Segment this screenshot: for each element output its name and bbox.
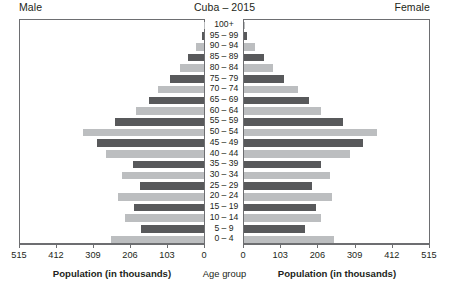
male-panel (19, 19, 205, 244)
age-group-label: 80 – 84 (205, 62, 243, 73)
female-axis-caption: Population (in thousands) (237, 268, 437, 279)
female-bar (244, 54, 264, 62)
age-group-label: 70 – 74 (205, 83, 243, 94)
male-bar (83, 129, 204, 137)
female-bar (244, 225, 305, 233)
male-bar (106, 150, 204, 158)
male-bar (188, 54, 204, 62)
x-axis-tick (19, 244, 20, 248)
x-axis-tick (317, 244, 318, 248)
age-group-label: 0 – 4 (205, 233, 243, 244)
female-bar (244, 118, 343, 126)
male-bar (140, 182, 204, 190)
x-axis-tick-label: 515 (409, 250, 449, 260)
female-bar (244, 204, 316, 212)
x-axis-tick (355, 244, 356, 248)
x-axis-tick-label: 309 (73, 250, 113, 260)
male-bar (118, 193, 204, 201)
x-axis-tick-label: 0 (223, 250, 263, 260)
age-group-label: 90 – 94 (205, 40, 243, 51)
female-bar (244, 193, 332, 201)
x-axis-tick-label: 0 (184, 250, 224, 260)
age-group-label: 75 – 79 (205, 73, 243, 84)
female-side-label: Female (394, 1, 430, 13)
age-group-label: 60 – 64 (205, 105, 243, 116)
x-axis-tick (429, 244, 430, 248)
female-bar (244, 75, 284, 83)
male-bar (111, 236, 204, 244)
female-bar (244, 107, 321, 115)
male-bar (133, 161, 204, 169)
female-bar (244, 150, 350, 158)
age-group-label: 85 – 89 (205, 51, 243, 62)
male-bar (196, 43, 204, 51)
age-group-label: 65 – 69 (205, 94, 243, 105)
x-axis-tick (392, 244, 393, 248)
male-bar (115, 118, 204, 126)
female-bar (244, 161, 321, 169)
female-bar (244, 97, 309, 105)
female-bar (244, 32, 247, 40)
male-bar (122, 172, 204, 180)
female-panel (243, 19, 430, 244)
age-group-label: 45 – 49 (205, 137, 243, 148)
x-axis-tick-label: 412 (372, 250, 412, 260)
female-axis-line (243, 244, 430, 245)
x-axis-tick (167, 244, 168, 248)
chart-title: Cuba – 2015 (0, 1, 449, 13)
age-group-label: 30 – 34 (205, 169, 243, 180)
male-bar (170, 75, 204, 83)
x-axis-tick (204, 244, 205, 248)
male-bar (136, 107, 204, 115)
x-axis-tick-label: 515 (0, 250, 39, 260)
x-axis-tick (56, 244, 57, 248)
male-bar (202, 32, 204, 40)
age-group-label: 55 – 59 (205, 115, 243, 126)
female-bar (244, 129, 377, 137)
female-bar (244, 64, 273, 72)
female-bar (244, 22, 245, 30)
male-bar (141, 225, 204, 233)
age-group-label: 5 – 9 (205, 223, 243, 234)
female-bar (244, 86, 298, 94)
male-bar (149, 97, 204, 105)
age-group-label: 35 – 39 (205, 158, 243, 169)
x-axis-tick (130, 244, 131, 248)
male-bar (134, 204, 204, 212)
female-bar (244, 236, 334, 244)
age-group-axis: 100+95 – 9990 – 9485 – 8980 – 8475 – 797… (205, 19, 243, 244)
female-bar (244, 214, 321, 222)
male-bar (180, 64, 204, 72)
x-axis-tick (280, 244, 281, 248)
female-bar (244, 182, 312, 190)
x-axis-tick-label: 103 (147, 250, 187, 260)
male-bar (97, 139, 204, 147)
age-group-label: 15 – 19 (205, 201, 243, 212)
x-axis-tick-label: 206 (110, 250, 150, 260)
male-bar (158, 86, 204, 94)
male-bar (125, 214, 204, 222)
age-group-label: 10 – 14 (205, 212, 243, 223)
male-axis-line (19, 244, 205, 245)
age-group-label: 20 – 24 (205, 190, 243, 201)
age-group-label: 95 – 99 (205, 30, 243, 41)
x-axis-tick (93, 244, 94, 248)
age-group-label: 40 – 44 (205, 148, 243, 159)
female-bar (244, 172, 330, 180)
age-group-label: 100+ (205, 19, 243, 30)
x-axis-tick-label: 309 (335, 250, 375, 260)
x-axis-tick (243, 244, 244, 248)
female-bar (244, 139, 363, 147)
x-axis-tick-label: 103 (260, 250, 300, 260)
population-pyramid-plot: 100+95 – 9990 – 9485 – 8980 – 8475 – 797… (19, 19, 430, 244)
female-bar (244, 43, 255, 51)
x-axis-tick-label: 412 (36, 250, 76, 260)
age-group-label: 50 – 54 (205, 126, 243, 137)
age-group-label: 25 – 29 (205, 180, 243, 191)
x-axis-tick-label: 206 (297, 250, 337, 260)
